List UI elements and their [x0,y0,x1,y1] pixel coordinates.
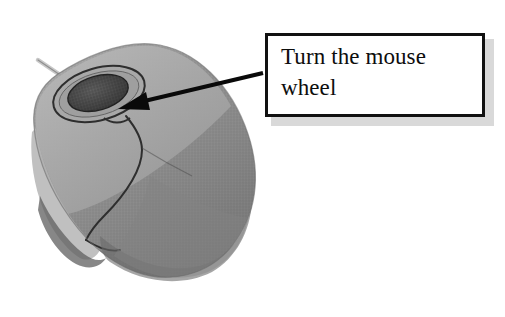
mouse-wheel-figure: Turn the mouse wheel [0,0,505,317]
callout-text: Turn the mouse wheel [281,41,477,103]
callout-box: Turn the mouse wheel [265,33,485,117]
